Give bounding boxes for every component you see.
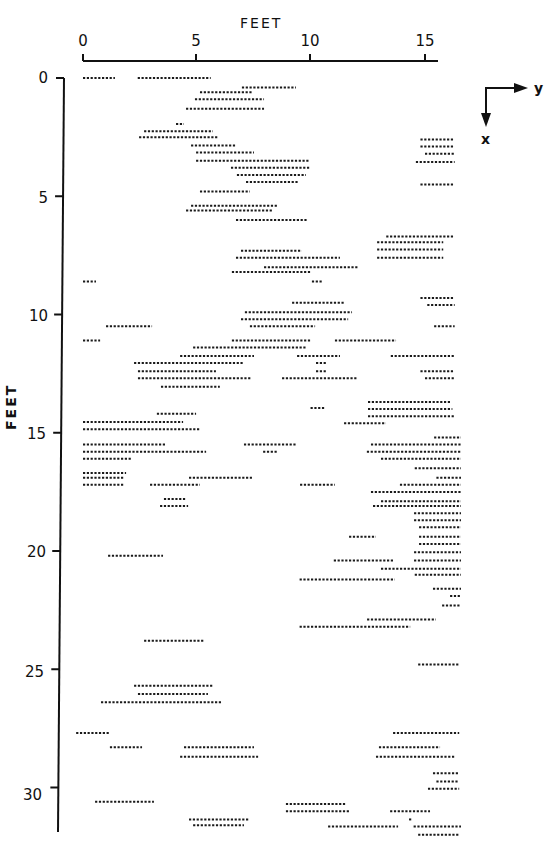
orientation-x-label: x bbox=[481, 132, 490, 146]
left-tick-label-10: 10 bbox=[8, 309, 48, 324]
arrow-down-icon bbox=[481, 113, 491, 127]
left-axis-line bbox=[58, 78, 64, 832]
figure-canvas bbox=[0, 0, 552, 849]
orientation-y-label: y bbox=[534, 81, 543, 95]
top-tick-label-5: 5 bbox=[191, 34, 201, 49]
left-axis-title: FEET bbox=[4, 384, 18, 430]
left-tick-label-30: 30 bbox=[2, 788, 42, 803]
left-tick-label-5: 5 bbox=[8, 191, 48, 206]
arrow-right-icon bbox=[514, 83, 528, 93]
left-tick-label-0: 0 bbox=[8, 71, 48, 86]
top-tick-label-0: 0 bbox=[78, 34, 88, 49]
top-tick-label-15: 15 bbox=[415, 34, 434, 49]
top-axis-title: FEET bbox=[240, 16, 282, 30]
left-tick-label-20: 20 bbox=[6, 545, 46, 560]
left-tick-label-15: 15 bbox=[6, 427, 46, 442]
dotted-runs bbox=[76, 78, 461, 835]
left-tick-label-25: 25 bbox=[4, 665, 44, 680]
top-tick-label-10: 10 bbox=[300, 34, 319, 49]
orientation-axes-icon bbox=[481, 83, 528, 127]
